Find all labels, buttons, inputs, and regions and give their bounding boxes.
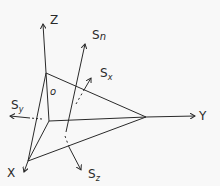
z-axis xyxy=(43,24,49,121)
sy-vector xyxy=(10,116,30,118)
sy-label: Sy xyxy=(11,99,23,111)
sy-sub: y xyxy=(19,105,24,114)
sx-label: Sx xyxy=(100,67,112,79)
sz-sub: z xyxy=(96,174,100,183)
diagram-lines xyxy=(0,0,220,186)
sn-sub: n xyxy=(100,31,106,42)
y-axis xyxy=(146,116,195,117)
sx-base: S xyxy=(100,66,108,80)
sn-base: S xyxy=(92,28,100,42)
y-axis-label: Y xyxy=(199,110,206,122)
edge-top-y xyxy=(46,73,146,117)
sy-base: S xyxy=(11,98,19,112)
sz-label: Sz xyxy=(88,168,100,180)
x-axis-label: X xyxy=(7,167,15,179)
edge-top-x xyxy=(28,73,46,161)
tetrahedron-diagram: Z Y X o Sn Sx Sy Sz xyxy=(0,0,220,186)
sn-label: Sn xyxy=(92,29,106,41)
edge-x-y xyxy=(28,117,146,161)
edge-o-x xyxy=(28,121,49,161)
sz-base: S xyxy=(88,167,96,181)
sz-vector xyxy=(69,147,81,170)
z-axis-label: Z xyxy=(50,14,58,26)
edge-o-y xyxy=(49,117,146,121)
origin-label: o xyxy=(50,87,56,97)
sx-vector xyxy=(84,78,91,90)
sn-vector xyxy=(66,44,85,132)
x-axis xyxy=(24,161,28,172)
sx-sub: x xyxy=(108,73,113,82)
